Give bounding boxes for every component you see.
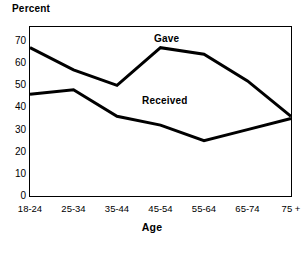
- x-axis-tick: 65-74: [235, 203, 259, 215]
- series-label-received: Received: [142, 95, 188, 106]
- x-axis-tick: 35-44: [105, 203, 129, 215]
- y-axis-tick: 70: [2, 36, 26, 46]
- x-axis-tick: 25-34: [61, 203, 85, 215]
- y-axis-tick: 0: [2, 191, 26, 201]
- y-axis-tick: 50: [2, 80, 26, 90]
- x-axis-tick: 55-64: [192, 203, 216, 215]
- plot-area-frame: [29, 26, 292, 197]
- y-axis-tick: 30: [2, 125, 26, 135]
- x-axis-tick: 45-54: [148, 203, 172, 215]
- y-axis-tick: 40: [2, 102, 26, 112]
- chart-figure: Percent 706050403020100 Gave Received 18…: [0, 0, 304, 258]
- y-axis-tick: 20: [2, 147, 26, 157]
- series-label-gave: Gave: [154, 33, 179, 44]
- x-axis-title: Age: [0, 221, 304, 233]
- y-axis-tick: 60: [2, 58, 26, 68]
- y-axis-tick-labels: 706050403020100: [0, 0, 26, 258]
- x-axis-tick-labels: 18-2425-3435-4445-5455-6465-7475 +: [0, 203, 304, 217]
- x-axis-tick: 75 +: [282, 203, 301, 215]
- y-axis-tick: 10: [2, 169, 26, 179]
- x-axis-tick: 18-24: [18, 203, 42, 215]
